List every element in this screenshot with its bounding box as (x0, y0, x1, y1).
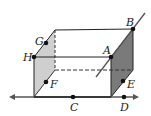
point-c (71, 95, 76, 100)
label-d: D (119, 101, 129, 114)
label-h: H (22, 51, 33, 64)
point-d (122, 95, 127, 100)
label-f: F (49, 78, 58, 91)
arrow-left-icon (9, 94, 15, 100)
prism-diagram: A B C D E F G H (0, 0, 151, 116)
arrow-right-icon (133, 94, 139, 100)
label-b: B (125, 16, 134, 29)
point-e (121, 79, 126, 84)
point-g (44, 41, 49, 46)
label-e: E (126, 78, 135, 91)
label-g: G (35, 35, 44, 48)
label-c: C (70, 101, 79, 114)
point-f (44, 80, 49, 85)
label-a: A (102, 44, 111, 57)
